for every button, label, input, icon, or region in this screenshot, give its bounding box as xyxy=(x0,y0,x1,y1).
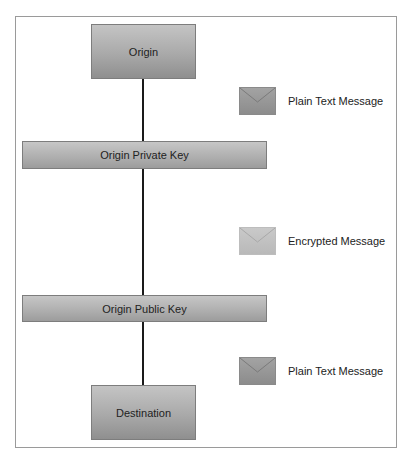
origin-node: Origin xyxy=(91,24,196,79)
envelope-icon xyxy=(239,357,276,385)
origin-public-key-node: Origin Public Key xyxy=(22,295,267,322)
plain-text-message-1: Plain Text Message xyxy=(239,87,383,115)
encrypted-message: Encrypted Message xyxy=(239,227,385,255)
origin-label: Origin xyxy=(129,46,158,58)
message-label: Encrypted Message xyxy=(288,235,385,247)
plain-text-message-2: Plain Text Message xyxy=(239,357,383,385)
message-label: Plain Text Message xyxy=(288,95,383,107)
connector-private-key-to-public-key xyxy=(142,169,144,295)
connector-origin-to-private-key xyxy=(142,79,144,141)
destination-node: Destination xyxy=(91,385,196,440)
origin-private-key-node: Origin Private Key xyxy=(22,141,267,169)
envelope-icon xyxy=(239,87,276,115)
destination-label: Destination xyxy=(116,407,171,419)
origin-public-key-label: Origin Public Key xyxy=(102,303,186,315)
origin-private-key-label: Origin Private Key xyxy=(100,149,189,161)
connector-public-key-to-destination xyxy=(142,322,144,385)
envelope-icon xyxy=(239,227,276,255)
message-label: Plain Text Message xyxy=(288,365,383,377)
